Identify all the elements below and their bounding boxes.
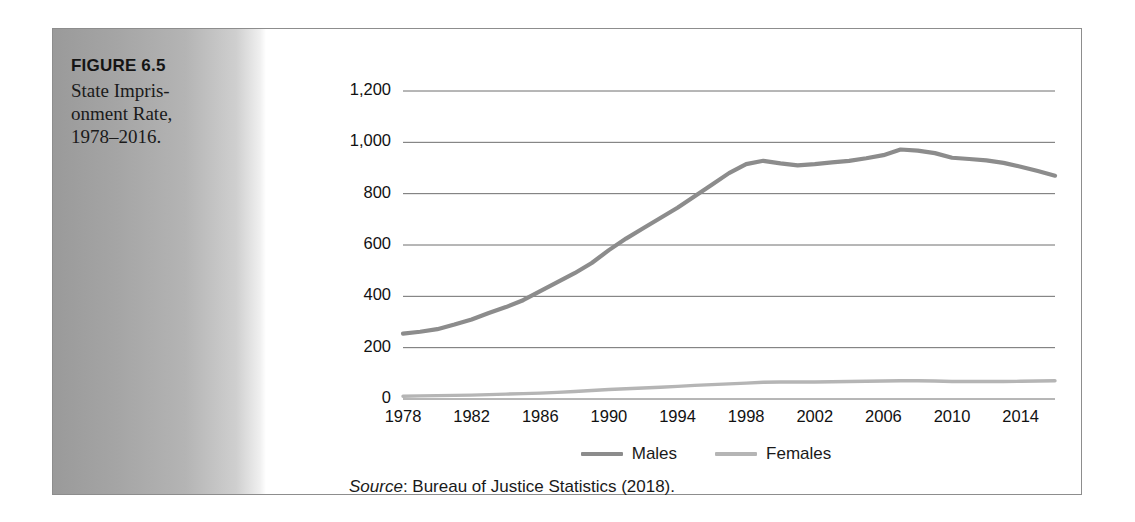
x-tick-label: 2014 <box>993 407 1049 426</box>
legend-label-females: Females <box>766 444 831 464</box>
y-tick-label: 1,200 <box>349 80 391 99</box>
figure-number-label: FIGURE 6.5 <box>71 55 241 77</box>
legend-swatch-males <box>581 452 623 456</box>
legend-item-females[interactable]: Females <box>715 444 831 464</box>
figure-title-line-1: State Impris- <box>71 79 241 102</box>
x-tick-label: 2010 <box>924 407 980 426</box>
source-text: : Bureau of Justice Statistics (2018). <box>403 477 675 496</box>
line-chart-svg <box>349 63 1063 413</box>
chart-legend: MalesFemales <box>349 444 1063 464</box>
x-tick-label: 2006 <box>855 407 911 426</box>
chart-gridlines <box>403 91 1055 399</box>
legend-swatch-females <box>715 452 757 456</box>
y-tick-label: 0 <box>349 388 391 407</box>
source-label: Source <box>349 477 403 496</box>
figure-frame: FIGURE 6.5 State Impris- onment Rate, 19… <box>52 28 1082 495</box>
figure-title: State Impris- onment Rate, 1978–2016. <box>71 79 241 148</box>
source-note: Source: Bureau of Justice Statistics (20… <box>349 477 675 497</box>
x-tick-label: 1998 <box>718 407 774 426</box>
y-tick-label: 200 <box>349 337 391 356</box>
legend-item-males[interactable]: Males <box>581 444 677 464</box>
y-tick-label: 400 <box>349 285 391 304</box>
series-line-females <box>403 381 1055 396</box>
x-tick-label: 1982 <box>444 407 500 426</box>
series-line-males <box>403 150 1055 334</box>
y-tick-label: 1,000 <box>349 131 391 150</box>
chart-plot-area: 1,2001,0008006004002000 1978198219861990… <box>349 63 1063 413</box>
figure-caption-text: FIGURE 6.5 State Impris- onment Rate, 19… <box>71 55 241 148</box>
legend-label-males: Males <box>632 444 677 464</box>
x-tick-label: 1994 <box>650 407 706 426</box>
x-tick-label: 1986 <box>512 407 568 426</box>
figure-title-line-3: 1978–2016. <box>71 125 241 148</box>
chart-series-layer <box>403 150 1055 397</box>
x-tick-label: 1978 <box>375 407 431 426</box>
figure-title-line-2: onment Rate, <box>71 102 241 125</box>
y-tick-label: 800 <box>349 183 391 202</box>
y-tick-label: 600 <box>349 234 391 253</box>
x-tick-label: 1990 <box>581 407 637 426</box>
figure-caption-panel: FIGURE 6.5 State Impris- onment Rate, 19… <box>53 29 266 494</box>
x-tick-label: 2002 <box>787 407 843 426</box>
